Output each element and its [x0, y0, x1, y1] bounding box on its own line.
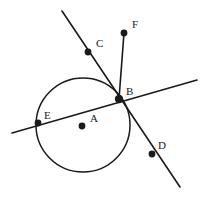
point-label-f: F — [132, 18, 138, 30]
point-label-e: E — [44, 109, 51, 121]
point-dot-c — [85, 49, 92, 56]
lines-group — [12, 11, 197, 187]
point-dot-a — [79, 123, 86, 130]
point-dot-b — [115, 95, 123, 103]
point-label-c: C — [96, 37, 103, 49]
geometry-canvas: ABCDEF — [0, 0, 202, 200]
point-dot-d — [149, 151, 156, 158]
geometry-diagram: ABCDEF — [0, 0, 202, 200]
segment-F-to-B — [119, 33, 124, 99]
labels-group: ABCDEF — [44, 18, 166, 151]
point-dot-e — [35, 120, 42, 127]
dots-group — [35, 30, 156, 158]
point-label-a: A — [90, 112, 98, 124]
point-label-d: D — [158, 139, 166, 151]
point-label-b: B — [126, 85, 133, 97]
point-dot-f — [121, 30, 128, 37]
